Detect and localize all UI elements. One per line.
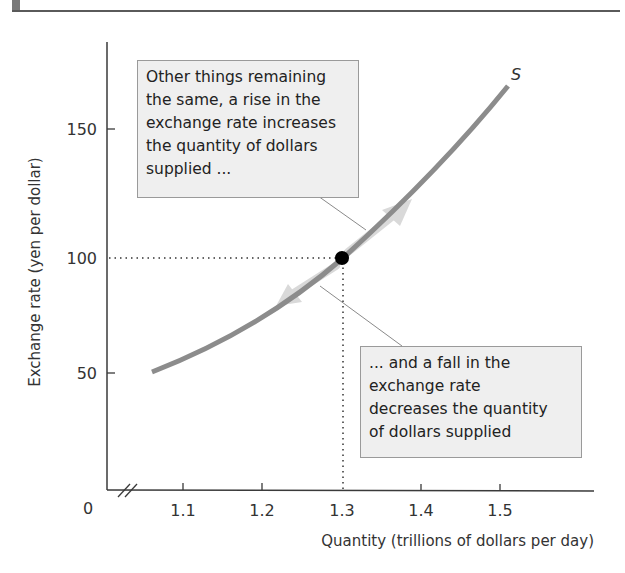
callout-rise-line: exchange rate increases (146, 112, 350, 135)
y-tick-label-50: 50 (77, 364, 97, 383)
origin-label: 0 (83, 499, 93, 518)
callout-rise-line: supplied ... (146, 158, 350, 181)
x-tick-label-1.1: 1.1 (170, 501, 195, 520)
callout-rise-line: the quantity of dollars (146, 135, 350, 158)
y-tick-label-150: 150 (66, 120, 97, 139)
curve-label: S (511, 65, 521, 84)
highlight-point (335, 251, 349, 265)
callout-fall: ... and a fall in the exchange rate decr… (360, 346, 582, 458)
callout-fall-line: ... and a fall in the (369, 352, 573, 375)
x-tick-label-1.5: 1.5 (487, 501, 512, 520)
x-tick-label-1.2: 1.2 (249, 501, 274, 520)
callout-fall-line: decreases the quantity (369, 398, 573, 421)
callout-rise-line: Other things remaining (146, 66, 350, 89)
x-axis (107, 490, 594, 491)
y-axis-title: Exchange rate (yen per dollar) (26, 157, 44, 386)
x-tick-label-1.3: 1.3 (329, 501, 354, 520)
callout-fall-line: exchange rate (369, 375, 573, 398)
leader-line-fall (320, 286, 402, 346)
x-tick-label-1.4: 1.4 (408, 501, 433, 520)
callout-rise-line: the same, a rise in the (146, 89, 350, 112)
leader-line-rise (318, 196, 366, 230)
x-axis-title: Quantity (trillions of dollars per day) (321, 532, 594, 550)
callout-rise: Other things remaining the same, a rise … (137, 60, 359, 198)
y-tick-label-100: 100 (66, 249, 97, 268)
callout-fall-line: of dollars supplied (369, 421, 573, 444)
